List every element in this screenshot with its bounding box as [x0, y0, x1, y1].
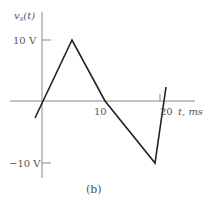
figure-caption: (b) — [86, 183, 102, 196]
x-tick-label-20: 20 — [160, 106, 173, 117]
y-axis-label: vs(t) — [14, 10, 35, 23]
y-tick-label-10v: 10 V — [13, 35, 37, 46]
x-axis-label: t, ms — [178, 106, 203, 117]
x-tick-label-10: 10 — [94, 106, 107, 117]
y-tick-label-neg10v: −10 V — [9, 158, 41, 169]
waveform-chart: vs(t) 10 V −10 V 10 20 t, ms (b) — [0, 0, 211, 207]
